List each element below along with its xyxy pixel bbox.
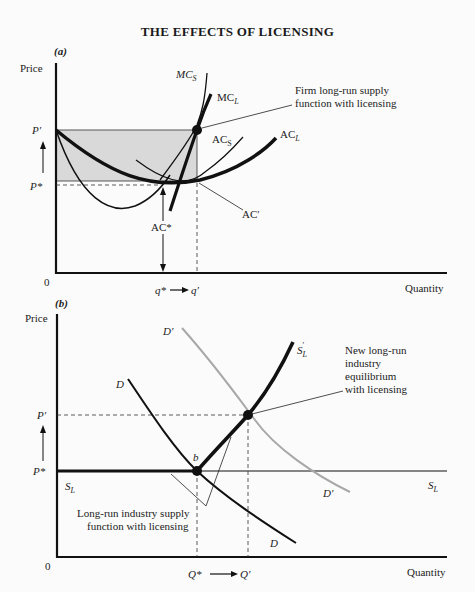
p-star-label-b: P* [32,465,46,477]
panel-a-label: (a) [54,45,67,58]
ac-prime-label: AC′ [242,208,260,220]
initial-equilibrium-point-b [192,466,202,476]
d-prime-label-bottom: D′ [322,487,334,499]
ac-prime-leader-line [199,183,243,210]
firm-equilibrium-point [192,125,202,135]
panel-a-x-axis-label: Quantity [405,282,444,294]
firm-supply-annotation-line1: Firm long-run supply [295,84,390,96]
point-b-label: b [193,451,199,463]
origin-b: 0 [45,560,51,572]
arrow-up-icon [40,425,46,433]
big-q-prime-label: Q′ [240,568,251,580]
panel-a-y-axis-label: Price [20,62,43,74]
d-prime-curve [182,328,350,492]
origin-a: 0 [44,276,50,288]
ac-star-label: AC* [151,221,172,233]
arrow-right-icon [231,571,238,577]
s-l-label-right: SL [428,479,439,494]
mc-l-label: MCL [217,91,239,106]
panel-b-x-axis-label: Quantity [407,566,446,578]
equilibrium-annotation-line4: with licensing [345,383,408,395]
new-equilibrium-point [243,410,253,420]
arrow-up-icon [160,187,166,195]
firm-supply-leader-line [202,105,292,128]
firm-supply-annotation-line2: function with licensing [295,97,397,109]
panel-b-y-axis-label: Price [25,312,48,324]
supply-annotation-line1: Long-run industry supply [77,507,190,519]
arrow-right-icon [182,287,189,293]
p-star-label-a: P* [29,180,43,192]
mc-s-label: MCS [175,68,197,83]
q-prime-label: q′ [191,284,200,296]
d-label-bottom: D [269,537,278,549]
s-l-label-left: SL [65,480,76,495]
big-q-star-label: Q* [188,568,202,580]
ac-s-label: ACS [212,133,232,148]
equilibrium-annotation-line1: New long-run [345,344,407,356]
equilibrium-annotation-line2: industry [345,357,382,369]
p-prime-label-a: P′ [31,124,42,136]
equilibrium-annotation-line3: equilibrium [345,370,397,382]
licensing-diagram: (a) Price MCS MCL ACS ACL AC′ Firm long-… [0,0,475,592]
ac-l-label: ACL [280,128,300,143]
panel-b: (b) Price D′ D D D′ b SL′ SL SL New [25,297,447,580]
s-l-prime-label: SL′ [297,341,308,359]
arrow-down-icon [160,264,166,272]
supply-annotation-line2: function with licensing [87,520,189,532]
panel-a: (a) Price MCS MCL ACS ACL AC′ Firm long-… [20,45,447,296]
d-prime-label: D′ [162,325,174,337]
arrow-up-icon [40,141,46,149]
p-prime-label-b: P′ [36,409,47,421]
panel-b-label: (b) [55,297,68,310]
q-star-label: q* [155,284,167,296]
d-label-top: D [115,378,124,390]
